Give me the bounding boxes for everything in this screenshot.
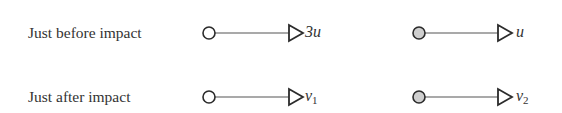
velocity-subscript: 1: [312, 94, 318, 106]
before-particle-b-arrow-icon: [498, 25, 512, 41]
before-particle-b-group: [413, 25, 512, 41]
after-particle-b-velocity-label: v2: [516, 88, 529, 106]
before-particle-a-velocity-label: 3u: [305, 24, 321, 42]
after-particle-b-icon: [413, 91, 425, 103]
before-particle-a-arrow-icon: [289, 25, 303, 41]
after-particle-a-icon: [203, 91, 215, 103]
after-particle-a-velocity-label: v1: [305, 88, 318, 106]
before-particle-a-icon: [203, 27, 215, 39]
before-particle-b-velocity-label: u: [516, 24, 524, 42]
before-particle-a-group: [203, 25, 303, 41]
velocity-subscript: 2: [523, 94, 529, 106]
velocity-symbol: 3u: [305, 23, 321, 40]
after-particle-a-group: [203, 89, 303, 105]
after-particle-b-arrow-icon: [498, 89, 512, 105]
after-particle-a-arrow-icon: [289, 89, 303, 105]
collision-diagram: [0, 0, 562, 113]
velocity-symbol: u: [516, 23, 524, 40]
after-particle-b-group: [413, 89, 512, 105]
before-particle-b-icon: [413, 27, 425, 39]
